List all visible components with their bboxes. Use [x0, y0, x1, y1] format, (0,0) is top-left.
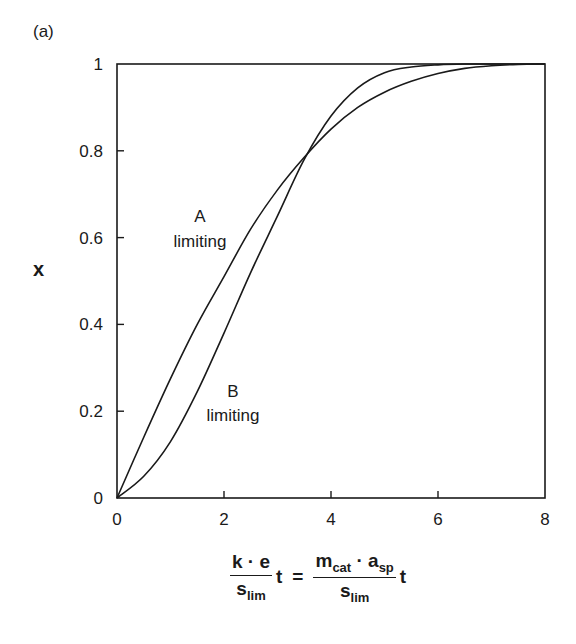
y-tick-label: 1 — [94, 55, 103, 74]
denominator-base: s — [340, 580, 351, 601]
y-tick-label: 0.8 — [79, 142, 103, 161]
x-tick-label: 8 — [540, 510, 549, 529]
x-tick-label: 0 — [112, 510, 121, 529]
a-sub: sp — [379, 560, 394, 575]
x-tick-label: 4 — [326, 510, 335, 529]
y-axis-label: x — [33, 258, 44, 281]
axis-ticks: 0246800.20.40.60.81 — [79, 55, 549, 529]
m-sub: cat — [332, 560, 351, 575]
m-symbol: m — [315, 550, 332, 571]
x-axis-label: k · e slim t = mcat · asp slim t — [230, 550, 406, 605]
annotation-a-title: A — [194, 207, 206, 226]
denominator-base: s — [236, 578, 247, 599]
annotation-b-title: B — [227, 382, 238, 401]
a-symbol: a — [368, 550, 379, 571]
y-tick-label: 0.2 — [79, 402, 103, 421]
time-symbol: t — [276, 566, 282, 588]
y-tick-label: 0.4 — [79, 315, 103, 334]
y-tick-label: 0 — [94, 489, 103, 508]
dot-symbol: · — [351, 550, 368, 571]
x-tick-label: 6 — [433, 510, 442, 529]
annotation-a-subtitle: limiting — [174, 232, 227, 251]
left-numerator: k · e — [230, 551, 272, 576]
curves — [117, 64, 545, 498]
x-tick-label: 2 — [219, 510, 228, 529]
time-symbol: t — [400, 566, 406, 588]
denominator-sub: lim — [351, 590, 370, 605]
denominator-sub: lim — [247, 588, 266, 603]
equals-sign: = — [292, 566, 303, 588]
line-chart: 0246800.20.40.60.81 A limiting B limitin… — [0, 0, 576, 644]
right-numerator: mcat · asp — [313, 550, 395, 578]
annotation-b-subtitle: limiting — [207, 406, 260, 425]
left-denominator: slim — [236, 576, 265, 603]
right-denominator: slim — [340, 578, 369, 605]
y-tick-label: 0.6 — [79, 229, 103, 248]
right-fraction: mcat · asp slim — [313, 550, 395, 605]
left-fraction: k · e slim — [230, 551, 272, 603]
a-limiting-curve — [117, 64, 545, 498]
